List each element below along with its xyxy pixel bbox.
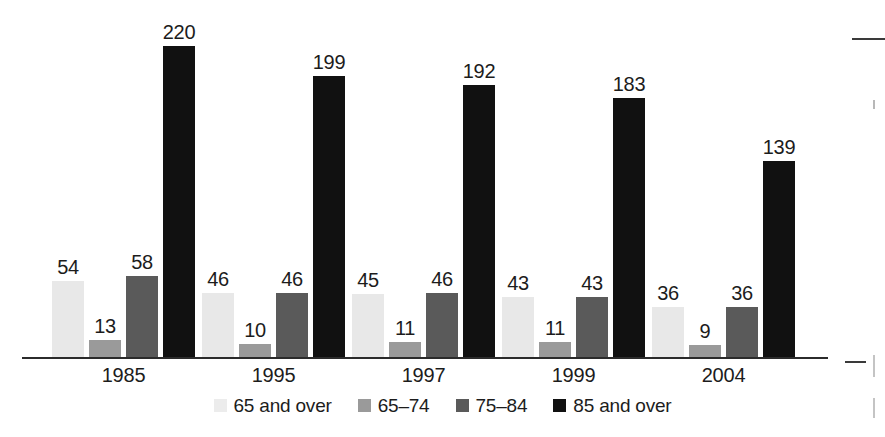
bar-chart: 5413582204610461994511461924311431833693… [0,0,885,437]
bar-1999-75-84[interactable] [576,297,608,358]
legend-item-65-and-over[interactable]: 65 and over [214,396,332,415]
bar-slot: 46 [426,6,458,358]
bar-slot: 36 [652,6,684,358]
bar-value-label: 43 [507,273,529,293]
bar-value-label: 11 [545,318,565,338]
legend-label: 85 and over [573,396,671,415]
bar-slot: 9 [689,6,721,358]
x-tick-label-1997: 1997 [402,362,446,388]
bar-1997-65-and-over[interactable] [352,294,384,358]
x-tick-label-1995: 1995 [252,362,296,388]
bar-slot: 45 [352,6,384,358]
scan-artifact-top-rule [852,38,885,40]
bar-value-label: 183 [613,74,645,94]
bar-1997-65-74[interactable] [389,342,421,358]
bar-2004-65-and-over[interactable] [652,307,684,358]
bar-value-label: 9 [700,321,711,341]
chart-legend: 65 and over65–7475–8485 and over [0,396,885,415]
bar-slot: 13 [89,6,121,358]
bar-slot: 139 [763,6,795,358]
bar-slot: 183 [613,6,645,358]
bar-1995-65-and-over[interactable] [202,293,234,358]
bar-1999-85-and-over[interactable] [613,98,645,358]
legend-swatch-icon [456,399,469,412]
bar-slot: 46 [202,6,234,358]
scan-artifact-bottom-rule [845,361,866,363]
bar-slot: 199 [313,6,345,358]
bar-slot: 43 [576,6,608,358]
bar-slot: 220 [163,6,195,358]
legend-item-75-84[interactable]: 75–84 [456,396,528,415]
x-axis-line [22,357,828,359]
bar-1985-75-84[interactable] [126,276,158,358]
legend-swatch-icon [214,399,227,412]
bar-slot: 11 [539,6,571,358]
bar-1995-65-74[interactable] [239,344,271,358]
bar-1985-65-74[interactable] [89,340,121,358]
legend-label: 65 and over [234,396,332,415]
bar-slot: 10 [239,6,271,358]
bar-slot: 46 [276,6,308,358]
legend-swatch-icon [358,399,371,412]
bar-slot: 192 [463,6,495,358]
legend-label: 65–74 [378,396,430,415]
bar-value-label: 36 [731,283,753,303]
bar-value-label: 54 [57,257,79,277]
bar-value-label: 139 [763,137,795,157]
bar-1985-65-and-over[interactable] [52,281,84,358]
bar-2004-85-and-over[interactable] [763,161,795,358]
bar-group-1999: 431143183 [502,6,650,358]
bar-slot: 54 [52,6,84,358]
bar-value-label: 11 [395,318,415,338]
bar-1997-85-and-over[interactable] [463,85,495,358]
bar-value-label: 46 [281,269,303,289]
scan-artifact-edge-mark [873,100,875,109]
legend-swatch-icon [553,399,566,412]
bar-2004-75-84[interactable] [726,307,758,358]
bar-value-label: 13 [94,316,116,336]
bar-value-label: 220 [163,22,195,42]
legend-item-85-and-over[interactable]: 85 and over [553,396,671,415]
bar-group-1997: 451146192 [352,6,500,358]
bar-1999-65-74[interactable] [539,342,571,358]
bar-value-label: 58 [131,252,153,272]
scan-artifact-edge-mark [873,355,875,377]
bar-value-label: 46 [431,269,453,289]
bar-1999-65-and-over[interactable] [502,297,534,358]
legend-item-65-74[interactable]: 65–74 [358,396,430,415]
bar-slot: 36 [726,6,758,358]
bar-value-label: 199 [313,52,345,72]
bar-group-1985: 541358220 [52,6,200,358]
legend-label: 75–84 [476,396,528,415]
scan-artifact-edge-mark [873,398,875,418]
bar-value-label: 10 [244,320,266,340]
bar-value-label: 46 [207,269,229,289]
bar-value-label: 45 [357,270,379,290]
plot-area: 5413582204610461994511461924311431833693… [22,6,822,358]
bar-value-label: 43 [581,273,603,293]
bar-1995-75-84[interactable] [276,293,308,358]
bar-1985-85-and-over[interactable] [163,46,195,358]
x-tick-label-2004: 2004 [702,362,746,388]
x-tick-label-1999: 1999 [552,362,596,388]
bar-value-label: 36 [657,283,679,303]
bar-value-label: 192 [463,61,495,81]
bar-slot: 11 [389,6,421,358]
bar-group-1995: 461046199 [202,6,350,358]
bar-slot: 43 [502,6,534,358]
x-tick-label-1985: 1985 [102,362,146,388]
bar-1997-75-84[interactable] [426,293,458,358]
bar-group-2004: 36936139 [652,6,800,358]
bar-1995-85-and-over[interactable] [313,76,345,358]
bar-slot: 58 [126,6,158,358]
x-axis-tick-labels: 19851995199719992004 [22,362,822,392]
